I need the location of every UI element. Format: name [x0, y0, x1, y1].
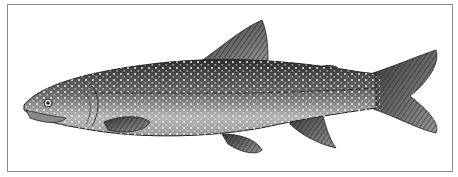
pelvic-fin	[222, 134, 262, 153]
tail-fin	[370, 50, 437, 133]
dorsal-fin	[200, 20, 268, 62]
fish-illustration	[0, 0, 458, 177]
